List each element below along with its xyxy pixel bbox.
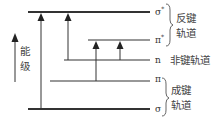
brace-icon [162,78,169,116]
symbol-sigma-star: σ* [155,5,164,17]
axis-label-char-1: 能 [20,45,31,57]
antibonding-label-line1: 反键 [176,12,197,24]
energy-axis-arrowhead-icon [12,33,19,42]
symbol-sigma: σ [155,104,161,114]
transition-pi-to-pi-star [93,41,100,81]
energy-level-diagram: 能 级 σ* π* [0,0,220,125]
nonbonding-label: 非键轨道 [170,54,211,66]
antibonding-group: 反键 轨道 [166,4,197,46]
energy-levels [28,12,150,109]
axis-label-char-2: 级 [20,60,31,72]
antibonding-label-line2: 轨道 [176,27,197,39]
transition-sigma-to-sigma-star [38,13,45,109]
arrowhead-icon [65,13,72,21]
transition-n-to-pi-star [117,41,124,60]
transitions [38,13,124,109]
symbol-pi-star: π* [155,33,164,45]
energy-axis: 能 级 [12,33,32,82]
brace-icon [166,4,173,46]
transition-n-to-sigma-star [65,13,72,60]
bonding-label-line2: 轨道 [171,99,192,111]
bonding-group: 成键 轨道 [162,78,192,116]
symbol-pi: π [155,74,161,84]
arrowhead-icon [117,41,124,49]
level-symbols: σ* π* n π σ [155,5,164,114]
nonbonding-group: 非键轨道 [170,54,211,66]
arrowhead-icon [38,13,45,21]
symbol-n: n [155,55,161,65]
bonding-label-line1: 成键 [171,84,192,96]
arrowhead-icon [93,41,100,49]
